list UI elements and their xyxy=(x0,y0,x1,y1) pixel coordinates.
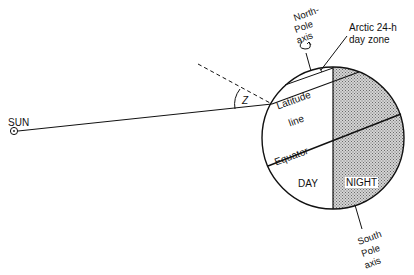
angle-arc xyxy=(235,89,240,109)
north-pole-axis xyxy=(306,53,311,71)
arctic-label-2: day zone xyxy=(349,34,390,45)
arctic-label-1: Arctic 24-h xyxy=(349,22,397,33)
earth-illumination-diagram: SUN North- Pole axis Arctic 24-h day zon… xyxy=(0,0,414,275)
night-label: NIGHT xyxy=(345,177,378,188)
angle-label: Z xyxy=(242,95,248,106)
sun-ray xyxy=(18,104,272,131)
south-pole-axis xyxy=(355,205,362,229)
day-label: DAY xyxy=(298,178,318,189)
sun-label: SUN xyxy=(8,117,29,128)
arctic-leader-line xyxy=(321,36,347,70)
